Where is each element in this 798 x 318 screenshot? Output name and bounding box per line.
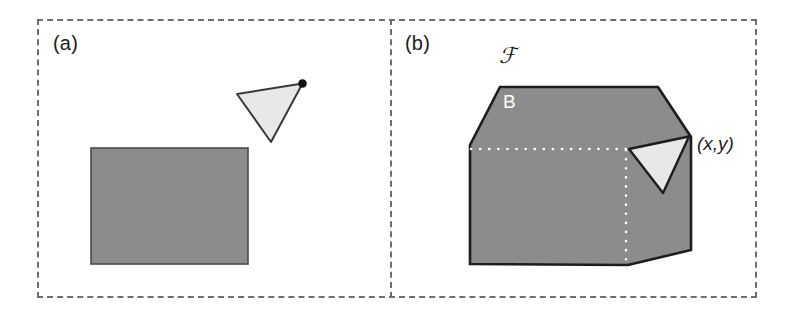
region-b-label: B [503, 92, 516, 111]
script-f-label: ℱ [499, 45, 516, 67]
panel-label-b: (b) [405, 33, 430, 53]
panel-label-a: (a) [53, 33, 78, 53]
figure-outer-frame [37, 19, 757, 298]
figure-root: (a) (b) ℱ B (x,y) [0, 0, 798, 318]
panel-divider [390, 19, 392, 298]
coordinate-xy-label: (x,y) [697, 134, 734, 153]
